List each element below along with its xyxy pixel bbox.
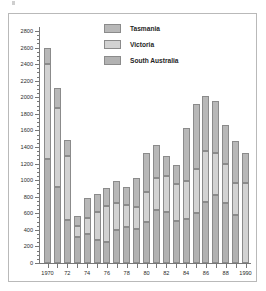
bar-stack (242, 153, 249, 263)
y-tick-major (35, 31, 40, 32)
legend-item: South Australia (104, 52, 178, 68)
legend-swatch (104, 24, 121, 33)
bar-segment-sa (133, 229, 140, 263)
bar-stack (193, 104, 200, 263)
x-axis-tick-label: 82 (156, 270, 176, 277)
bar-stack (173, 165, 180, 263)
y-tick-minor (37, 60, 40, 61)
bar-segment-vic (143, 192, 150, 222)
x-tick (137, 264, 138, 268)
y-tick-major (35, 263, 40, 264)
x-tick (77, 264, 78, 268)
y-tick-minor (37, 68, 40, 69)
y-tick-major (35, 246, 40, 247)
bar-segment-tas (64, 140, 71, 156)
y-tick-major (35, 180, 40, 181)
bar-segment-sa (143, 222, 150, 263)
y-tick-minor (37, 89, 40, 90)
y-tick-minor (37, 93, 40, 94)
y-tick-minor (37, 222, 40, 223)
bar-segment-tas (163, 156, 170, 177)
y-tick-minor (37, 259, 40, 260)
bar-segment-sa (163, 212, 170, 263)
y-axis-tick-label: 800 (11, 194, 33, 200)
y-tick-minor (37, 77, 40, 78)
bar-segment-tas (153, 145, 160, 179)
bar-segment-vic (242, 183, 249, 263)
bar-segment-tas (183, 128, 190, 180)
x-tick (48, 264, 49, 268)
legend-label: Victoria (130, 41, 154, 48)
bar-segment-tas (54, 88, 61, 108)
y-tick-minor (37, 217, 40, 218)
y-axis-line (39, 27, 40, 264)
bar-segment-sa (74, 237, 81, 264)
bar-segment-sa (212, 195, 219, 263)
bar-segment-sa (202, 202, 209, 263)
y-axis-tick-label: 200 (11, 243, 33, 249)
bar-segment-vic (84, 218, 91, 234)
y-tick-minor (37, 35, 40, 36)
y-tick-minor (37, 172, 40, 173)
bar-segment-sa (64, 220, 71, 263)
x-tick (246, 264, 247, 268)
x-axis-tick-label: 74 (77, 270, 97, 277)
bar-segment-vic (153, 178, 160, 209)
y-tick-minor (37, 106, 40, 107)
y-axis-tick-label: 1000 (11, 177, 33, 183)
x-tick (67, 264, 68, 268)
x-tick (97, 264, 98, 268)
bar-stack (103, 188, 110, 263)
bar-segment-tas (212, 101, 219, 153)
x-tick (206, 264, 207, 268)
bar-segment-tas (232, 141, 239, 183)
y-tick-major (35, 164, 40, 165)
y-tick-minor (37, 85, 40, 86)
y-axis-tick-label: 1400 (11, 144, 33, 150)
y-tick-minor (37, 56, 40, 57)
bar-segment-sa (232, 215, 239, 263)
x-axis-tick-label: 1990 (236, 270, 256, 277)
bar-segment-sa (173, 221, 180, 263)
x-tick (107, 264, 108, 268)
bar-stack (232, 141, 239, 263)
legend-label: Tasmania (130, 25, 160, 32)
y-tick-minor (37, 118, 40, 119)
y-tick-minor (37, 122, 40, 123)
x-tick (87, 264, 88, 268)
y-tick-minor (37, 242, 40, 243)
bar-segment-sa (103, 242, 110, 263)
y-tick-minor (37, 205, 40, 206)
y-tick-major (35, 97, 40, 98)
bar-segment-vic (163, 176, 170, 211)
y-tick-minor (37, 255, 40, 256)
bar-segment-sa (113, 230, 120, 263)
bar-stack (84, 198, 91, 263)
bar-stack (123, 187, 130, 263)
x-axis-tick-label: 1970 (38, 270, 58, 277)
x-axis-tick-label: 76 (97, 270, 117, 277)
bar-segment-sa (193, 213, 200, 263)
x-tick (57, 264, 58, 268)
bar-segment-vic (173, 184, 180, 221)
y-tick-minor (37, 72, 40, 73)
bar-segment-vic (113, 203, 120, 230)
x-tick (156, 264, 157, 268)
legend-label: South Australia (130, 57, 178, 64)
bar-stack (54, 88, 61, 263)
y-tick-minor (37, 251, 40, 252)
chart-frame: 0200400600800100012001400160018002000220… (8, 13, 257, 282)
bar-segment-tas (103, 188, 110, 206)
y-tick-minor (37, 226, 40, 227)
bar-segment-vic (222, 164, 229, 204)
chart-plot-area: 0200400600800100012001400160018002000220… (9, 14, 258, 283)
y-axis-tick-label: 600 (11, 210, 33, 216)
y-tick-minor (37, 176, 40, 177)
x-tick (147, 264, 148, 268)
bar-segment-sa (84, 234, 91, 263)
y-axis-tick-label: 1800 (11, 111, 33, 117)
bar-segment-vic (94, 212, 101, 240)
bar-segment-tas (74, 216, 81, 226)
bar-segment-vic (64, 156, 71, 220)
y-tick-minor (37, 168, 40, 169)
